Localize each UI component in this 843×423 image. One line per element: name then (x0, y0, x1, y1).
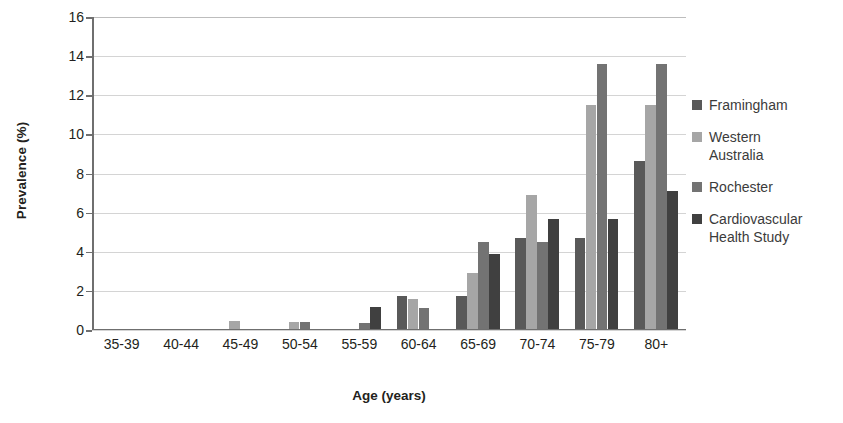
y-axis-tick-label: 4 (50, 244, 84, 260)
bar (537, 242, 548, 330)
bar-group (330, 17, 389, 330)
y-axis-tick-label: 8 (50, 166, 84, 182)
bar (489, 254, 500, 330)
legend-label: Framingham (709, 96, 788, 114)
gridline (92, 330, 686, 331)
bar (478, 242, 489, 330)
bar-group (448, 17, 507, 330)
y-axis-tick-label: 2 (50, 283, 84, 299)
legend-item: Cardiovascular Health Study (692, 210, 840, 246)
bar-chart: Prevalence (%) 0246810121416 35-3940-444… (0, 0, 843, 423)
bar-group (508, 17, 567, 330)
bar (456, 296, 467, 330)
x-axis-title: Age (years) (92, 388, 686, 403)
legend-label: Rochester (709, 178, 773, 196)
legend-item: Rochester (692, 178, 840, 196)
bar-group (211, 17, 270, 330)
legend-swatch-icon (692, 100, 702, 110)
bar (634, 161, 645, 330)
x-axis-tick-labels: 35-3940-4445-4950-5455-5960-6465-6970-74… (92, 336, 686, 364)
y-axis-tick-labels: 0246810121416 (44, 17, 84, 330)
bar (608, 219, 619, 331)
bar (408, 299, 419, 330)
x-axis-tick-label: 60-64 (389, 336, 448, 352)
legend-swatch-icon (692, 132, 702, 142)
x-axis-tick-label: 40-44 (151, 336, 210, 352)
y-axis-tick-label: 0 (50, 322, 84, 338)
x-axis-tick-label: 50-54 (270, 336, 329, 352)
bar (467, 273, 478, 330)
y-axis-tick-label: 16 (50, 9, 84, 25)
plot-area (92, 17, 686, 330)
y-axis-title-text: Prevalence (%) (15, 121, 30, 218)
x-axis-tick-label: 75-79 (567, 336, 626, 352)
x-axis-tick-label: 70-74 (508, 336, 567, 352)
legend-item: Framingham (692, 96, 840, 114)
bar (656, 64, 667, 330)
bar-group (151, 17, 210, 330)
bar (667, 191, 678, 330)
bar (419, 308, 430, 330)
bar (526, 195, 537, 330)
x-axis-tick-label: 45-49 (211, 336, 270, 352)
x-axis-tick-label: 80+ (627, 336, 686, 352)
y-axis-title: Prevalence (%) (4, 0, 40, 340)
bar-group (627, 17, 686, 330)
bar (575, 238, 586, 330)
y-axis-tick-label: 6 (50, 205, 84, 221)
bar-group (567, 17, 626, 330)
bar-group (389, 17, 448, 330)
bar (548, 219, 559, 331)
bar (370, 307, 381, 330)
bar (597, 64, 608, 330)
legend-swatch-icon (692, 214, 702, 224)
chart-legend: FraminghamWestern AustraliaRochesterCard… (692, 96, 840, 260)
bar (397, 296, 408, 330)
y-axis-tick-label: 12 (50, 87, 84, 103)
y-axis-line (92, 17, 94, 330)
legend-item: Western Australia (692, 128, 840, 164)
x-axis-tick-label: 65-69 (448, 336, 507, 352)
bar (586, 105, 597, 330)
x-axis-tick-label: 55-59 (330, 336, 389, 352)
y-axis-tick-label: 14 (50, 48, 84, 64)
bar (515, 238, 526, 330)
bar-group (92, 17, 151, 330)
legend-swatch-icon (692, 182, 702, 192)
x-axis-line (92, 329, 686, 331)
y-axis-tick-label: 10 (50, 126, 84, 142)
legend-label: Cardiovascular Health Study (709, 210, 802, 246)
bar (645, 105, 656, 330)
x-axis-tick-label: 35-39 (92, 336, 151, 352)
bar-group (270, 17, 329, 330)
legend-label: Western Australia (709, 128, 763, 164)
